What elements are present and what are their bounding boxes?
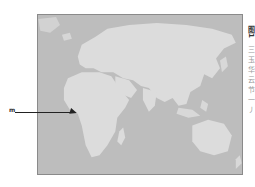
pointer-arrow-line	[15, 112, 75, 113]
world-map	[37, 14, 243, 175]
pointer-label: m	[9, 106, 15, 113]
caption-body: 三玉华云节一丿	[247, 46, 255, 116]
figure-caption: 图1 三玉华云节一丿	[247, 26, 255, 116]
map-graphic	[38, 15, 242, 174]
caption-title: 图1	[247, 26, 255, 38]
